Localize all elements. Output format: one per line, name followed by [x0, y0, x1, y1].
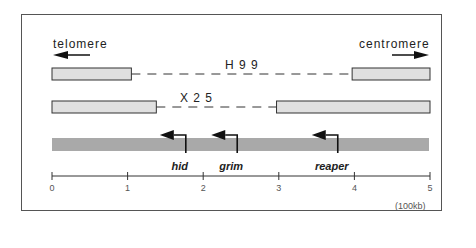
axis-tick-label: 0: [49, 183, 54, 193]
telomere-label: telomere: [53, 37, 108, 51]
scale-axis: 012345: [49, 172, 432, 193]
axis-tick-label: 5: [427, 183, 432, 193]
deletion-label: X 2 5: [180, 91, 213, 105]
scale-unit-label: (100kb): [395, 201, 426, 211]
deletion-label: H 9 9: [225, 58, 259, 72]
deletion-x25: X 2 5: [52, 91, 430, 113]
axis-tick-label: 4: [352, 183, 357, 193]
axis-tick-label: 3: [276, 183, 281, 193]
centromere-arrow-icon: [392, 51, 429, 59]
gene-label: grim: [218, 160, 243, 172]
centromere-label: centromere: [359, 37, 430, 51]
genomic-diagram: telomere centromere H 9 9X 2 5 hidgrimre…: [0, 0, 476, 248]
axis-tick-label: 1: [125, 183, 130, 193]
gene-label: reaper: [315, 160, 349, 172]
axis-tick-label: 2: [201, 183, 206, 193]
retained-right-segment: [352, 68, 430, 80]
retained-left-segment: [52, 68, 131, 80]
retained-left-segment: [52, 101, 156, 113]
retained-right-segment: [277, 101, 430, 113]
genomic-region-bar: [52, 138, 429, 151]
telomere-arrow-icon: [53, 51, 90, 59]
deletion-h99: H 9 9: [52, 58, 430, 80]
gene-label: hid: [172, 160, 189, 172]
